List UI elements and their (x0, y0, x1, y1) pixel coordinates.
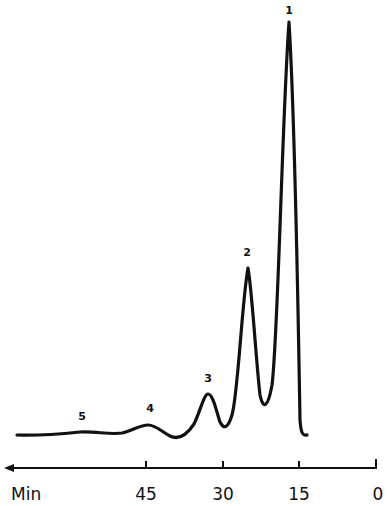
x-axis (4, 459, 376, 472)
peak-label-3: 3 (204, 372, 212, 385)
arrow-left-icon (4, 464, 14, 472)
x-tick-label-45: 45 (135, 484, 157, 504)
peak-label-1: 1 (285, 4, 293, 17)
peak-label-4: 4 (146, 402, 154, 415)
x-tick-label-0: 0 (373, 484, 384, 504)
peak-label-2: 2 (243, 246, 251, 259)
chromatogram-chart: 1 2 3 4 5 Min 45 30 15 0 (0, 0, 387, 506)
x-tick-label-15: 15 (288, 484, 310, 504)
peak-label-5: 5 (78, 410, 86, 423)
x-tick-label-30: 30 (212, 484, 234, 504)
chromatogram-trace (17, 22, 307, 438)
x-axis-unit-label: Min (11, 484, 41, 504)
